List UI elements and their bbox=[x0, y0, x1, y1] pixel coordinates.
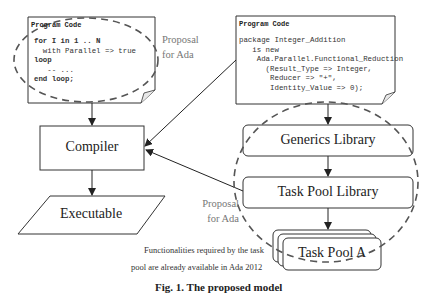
code-line: Ada.Parallel.Functional_Reduction bbox=[239, 55, 403, 65]
code-line: loop bbox=[34, 56, 136, 66]
code-line: Reducer => "+", bbox=[239, 74, 403, 84]
generics-library-label: Generics Library bbox=[243, 132, 413, 148]
code-line: with Parallel => true bbox=[34, 47, 136, 57]
code-line: end loop; bbox=[34, 75, 136, 85]
proposal-label-top: Proposal for Ada bbox=[162, 32, 199, 62]
note-line-2: pool are already available in Ada 2012 bbox=[131, 262, 262, 272]
code-line: for I in 1 .. N bbox=[34, 37, 136, 47]
figure-caption: Fig. 1. The proposed model bbox=[155, 281, 282, 293]
executable-label: Executable bbox=[30, 206, 152, 222]
right-code-note: Program Code package Integer_Addition is… bbox=[239, 20, 403, 94]
compiler-label: Compiler bbox=[40, 139, 144, 155]
task-pool-a-label: Task Pool A bbox=[283, 245, 381, 261]
task-pool-library-label: Task Pool Library bbox=[243, 184, 413, 200]
left-code-title: Program Code bbox=[31, 21, 136, 29]
code-line: Identity_Value => 0); bbox=[239, 84, 403, 94]
code-line: -- ... bbox=[34, 66, 136, 76]
code-line: is new bbox=[239, 46, 403, 56]
code-line: package Integer_Addition bbox=[239, 36, 403, 46]
code-line: (Result_Type => Integer, bbox=[239, 65, 403, 75]
proposal-label-bottom: Proposal for Ada bbox=[195, 196, 239, 226]
right-code-title: Program Code bbox=[239, 20, 403, 28]
note-line-1: Functionalities required by the task bbox=[144, 245, 264, 255]
left-code-note: Program Code for I in 1 .. N with Parall… bbox=[31, 21, 136, 85]
